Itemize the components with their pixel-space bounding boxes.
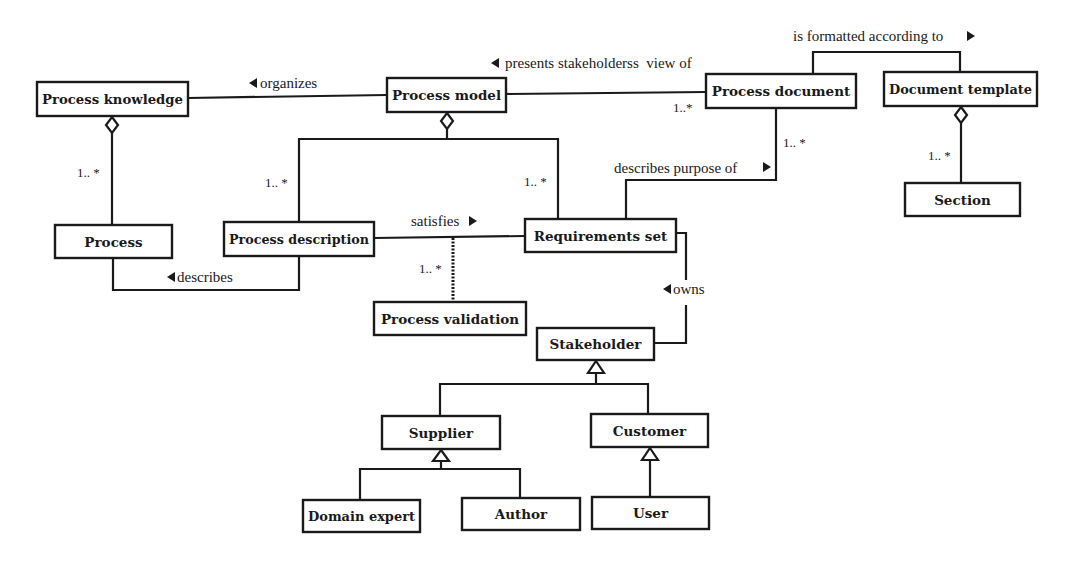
supplier-gen-branch [360, 469, 520, 500]
organizes-label: organizes [260, 75, 317, 91]
class-stakeholder: Stakeholder [537, 328, 654, 360]
class-process: Process [55, 225, 172, 258]
owns-line-top [676, 233, 686, 280]
aggregation-diamonds [106, 107, 967, 133]
presents-view-line [506, 92, 706, 94]
describes-purpose-label: describes purpose of [614, 160, 737, 176]
stakeholder-gen-branch [440, 384, 648, 416]
generalization-triangle-icon [642, 448, 658, 460]
owns-label: owns [673, 281, 705, 297]
model-branch-line [299, 139, 558, 222]
class-label-process-knowledge: Process knowledge [42, 91, 183, 107]
arrow-right-icon [763, 162, 771, 172]
class-label-requirements-set: Requirements set [534, 228, 668, 244]
class-label-user: User [633, 505, 669, 521]
class-section: Section [905, 183, 1020, 216]
class-label-process: Process [84, 234, 143, 250]
class-process-knowledge: Process knowledge [37, 82, 188, 116]
connectors [112, 52, 961, 500]
class-label-document-template: Document template [889, 81, 1032, 97]
class-label-process-description: Process description [229, 231, 369, 247]
aggregation-diamond-icon [955, 107, 967, 123]
arrow-left-icon [491, 58, 499, 68]
class-label-process-validation: Process validation [381, 311, 519, 327]
class-author: Author [462, 498, 580, 530]
presents-view-label: presents stakeholderss view of [505, 55, 692, 71]
class-label-supplier: Supplier [409, 425, 474, 441]
uml-class-diagram: Process knowledgeProcess modelProcess do… [0, 0, 1075, 571]
class-requirements-set: Requirements set [525, 219, 676, 252]
satisfies-line [374, 236, 525, 238]
arrow-right-icon [967, 31, 975, 41]
class-label-author: Author [494, 506, 548, 522]
class-label-customer: Customer [613, 423, 687, 439]
multiplicities: 1.. * 1.. * 1.. * 1..* 1.. * 1.. * 1.. * [77, 100, 951, 276]
class-document-template: Document template [884, 72, 1037, 106]
multiplicity-section: 1.. * [928, 148, 951, 163]
multiplicity-requirements-set: 1.. * [524, 174, 547, 189]
owns-line-bottom [654, 305, 686, 343]
class-domain-expert: Domain expert [303, 500, 420, 532]
multiplicity-process-validation: 1.. * [419, 261, 442, 276]
class-boxes: Process knowledgeProcess modelProcess do… [37, 72, 1037, 532]
arrow-left-icon [167, 272, 175, 282]
arrow-right-icon [469, 216, 477, 226]
class-process-document: Process document [706, 74, 856, 108]
multiplicity-process: 1.. * [77, 165, 100, 180]
satisfies-label: satisfies [411, 213, 459, 229]
is-formatted-line [813, 52, 960, 74]
describes-label: describes [177, 269, 233, 285]
organizes-line [188, 95, 387, 98]
generalization-triangle-icon [588, 361, 604, 373]
class-user: User [592, 497, 709, 529]
class-process-model: Process model [387, 78, 506, 112]
arrow-left-icon [249, 78, 257, 88]
class-label-process-model: Process model [392, 87, 501, 103]
class-process-description: Process description [224, 222, 374, 256]
multiplicity-process-document-left: 1..* [673, 100, 693, 115]
class-customer: Customer [591, 414, 708, 447]
class-process-validation: Process validation [374, 302, 526, 335]
class-label-stakeholder: Stakeholder [550, 336, 643, 352]
class-label-process-document: Process document [712, 83, 851, 99]
multiplicity-process-document-bottom: 1.. * [783, 135, 806, 150]
aggregation-diamond-icon [441, 113, 453, 129]
multiplicity-process-description: 1.. * [265, 175, 288, 190]
arrow-left-icon [663, 284, 671, 294]
is-formatted-label: is formatted according to [793, 28, 943, 44]
aggregation-diamond-icon [106, 117, 118, 133]
class-supplier: Supplier [382, 416, 500, 449]
class-label-section: Section [934, 192, 991, 208]
class-label-domain-expert: Domain expert [308, 508, 416, 524]
generalization-triangle-icon [433, 450, 449, 461]
